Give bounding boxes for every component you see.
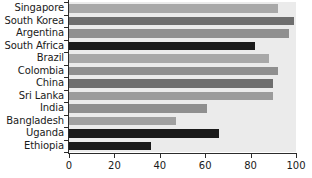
category-label: South Africa <box>0 40 66 53</box>
y-axis-tick <box>64 65 68 66</box>
y-axis-tick <box>64 140 68 141</box>
category-label: Colombia <box>0 65 66 78</box>
x-axis-tick-label: 100 <box>286 160 305 171</box>
bar-row <box>69 77 296 90</box>
bars-layer <box>69 2 296 152</box>
x-axis-tick <box>160 154 161 158</box>
bar-row <box>69 40 296 53</box>
category-label: Ethiopia <box>0 140 66 153</box>
plot-area <box>69 2 296 152</box>
y-axis-tick <box>64 27 68 28</box>
x-axis-tick-label: 60 <box>199 160 212 171</box>
category-label: India <box>0 102 66 115</box>
bar-row <box>69 140 296 153</box>
x-axis-tick <box>114 154 115 158</box>
x-axis-tick-label: 80 <box>244 160 257 171</box>
category-label: Brazil <box>0 52 66 65</box>
x-axis-tick <box>69 154 70 158</box>
y-axis-tick <box>64 40 68 41</box>
bar <box>69 54 269 63</box>
y-axis-tick <box>64 152 68 153</box>
bar-row <box>69 127 296 140</box>
category-label: Singapore <box>0 2 66 15</box>
y-axis-tick <box>64 77 68 78</box>
y-axis-tick <box>64 2 68 3</box>
y-axis-tick <box>64 115 68 116</box>
bar-row <box>69 102 296 115</box>
x-axis-tick-label: 20 <box>108 160 121 171</box>
bar <box>69 79 273 88</box>
bar <box>69 29 289 38</box>
category-label: China <box>0 77 66 90</box>
y-axis-tick <box>64 127 68 128</box>
x-axis-line <box>68 153 297 154</box>
category-label: Argentina <box>0 27 66 40</box>
x-axis-tick <box>205 154 206 158</box>
bar <box>69 67 278 76</box>
x-axis-tick <box>296 154 297 158</box>
x-axis-tick-label: 40 <box>153 160 166 171</box>
bar <box>69 92 273 101</box>
bar-row <box>69 65 296 78</box>
bar <box>69 42 255 51</box>
category-label: Bangladesh <box>0 115 66 128</box>
category-label: Uganda <box>0 127 66 140</box>
bar-row <box>69 52 296 65</box>
bar <box>69 142 151 151</box>
bar <box>69 129 219 138</box>
bar-row <box>69 2 296 15</box>
y-axis-line <box>68 0 69 154</box>
bar <box>69 104 207 113</box>
bar-row <box>69 90 296 103</box>
category-label: South Korea <box>0 15 66 28</box>
category-label: Sri Lanka <box>0 90 66 103</box>
y-axis-tick <box>64 90 68 91</box>
y-axis-tick <box>64 52 68 53</box>
x-axis-tick-label: 0 <box>66 160 72 171</box>
bar <box>69 117 176 126</box>
bar-row <box>69 15 296 28</box>
bar-row <box>69 115 296 128</box>
bar <box>69 17 294 26</box>
y-axis-tick <box>64 102 68 103</box>
x-axis-tick <box>251 154 252 158</box>
bar-chart: SingaporeSouth KoreaArgentinaSouth Afric… <box>0 0 312 178</box>
category-axis-labels: SingaporeSouth KoreaArgentinaSouth Afric… <box>0 2 66 152</box>
bar <box>69 4 278 13</box>
y-axis-tick <box>64 15 68 16</box>
bar-row <box>69 27 296 40</box>
